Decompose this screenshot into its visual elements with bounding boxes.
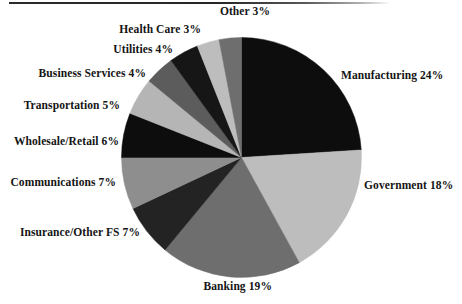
slice-label-health-care: Health Care 3% — [0, 24, 201, 36]
slice-label-banking: Banking 19% — [132, 281, 272, 293]
pie-slice-group — [122, 38, 362, 278]
slice-label-wholesale-retail: Wholesale/Retail 6% — [0, 136, 119, 148]
slice-label-manufacturing: Manufacturing 24% — [341, 70, 443, 82]
slice-label-insurance-other-fs: Insurance/Other FS 7% — [0, 227, 140, 239]
pie-slice-manufacturing — [242, 38, 362, 158]
slice-label-business-services: Business Services 4% — [0, 68, 146, 80]
slice-label-transportation: Transportation 5% — [0, 100, 120, 112]
pie-chart-graphic — [121, 37, 362, 278]
slice-label-government: Government 18% — [364, 180, 453, 192]
pie-svg — [121, 37, 362, 278]
pie-chart-figure: Manufacturing 24% Government 18% Banking… — [0, 0, 462, 304]
slice-label-communications: Communications 7% — [0, 177, 116, 189]
slice-label-other: Other 3% — [160, 6, 270, 18]
slice-label-utilities: Utilities 4% — [0, 44, 173, 56]
header-rule — [9, 2, 391, 4]
